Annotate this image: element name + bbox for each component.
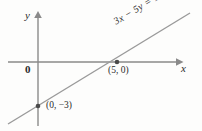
y-axis: [34, 11, 42, 126]
point-marker-x-intercept: [115, 60, 120, 65]
x-axis-label: x: [181, 63, 186, 74]
line-graph-figure: y x 0 3x − 5y = 15 (5, 0) (0, −3): [0, 0, 202, 131]
x-intercept-label: (5, 0): [108, 66, 129, 76]
point-marker-y-intercept: [36, 104, 41, 109]
y-axis-arrowhead: [34, 11, 42, 18]
origin-label: 0: [25, 64, 31, 75]
y-intercept-label: (0, −3): [46, 101, 72, 111]
y-axis-label: y: [25, 10, 30, 21]
plot-line-3x-5y-15: [8, 13, 190, 124]
x-axis: [8, 58, 184, 66]
